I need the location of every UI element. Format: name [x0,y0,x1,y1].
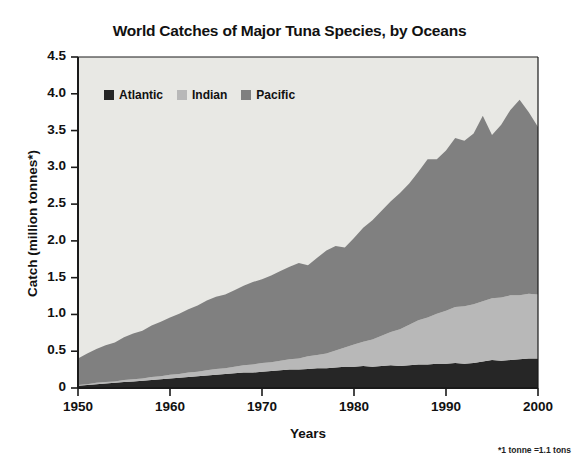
y-axis-label: Catch (million tonnes*) [25,74,40,374]
legend-swatch-icon [177,90,187,100]
y-tick-label: 3.5 [22,122,66,137]
legend-item-pacific[interactable]: Pacific [241,88,295,102]
x-tick-label: 1980 [324,399,384,414]
chart-footnote: *1 tonne =1.1 tons [498,445,571,455]
stacked-area-plot [0,0,579,464]
y-tick-label: 1.5 [22,269,66,284]
legend-label: Atlantic [119,88,163,102]
legend-swatch-icon [104,90,114,100]
y-tick-label: 1.0 [22,305,66,320]
y-tick-label: 4.0 [22,85,66,100]
y-tick-label: 3.0 [22,158,66,173]
y-tick-label: 2.5 [22,195,66,210]
y-tick-label: 0.5 [22,342,66,357]
y-tick-label: 0 [22,379,66,394]
chart-legend: AtlanticIndianPacific [104,88,295,102]
x-tick-label: 1970 [232,399,292,414]
legend-item-atlantic[interactable]: Atlantic [104,88,163,102]
legend-item-indian[interactable]: Indian [177,88,227,102]
y-tick-label: 2.0 [22,232,66,247]
x-tick-label: 2000 [508,399,568,414]
x-tick-label: 1990 [416,399,476,414]
x-tick-label: 1950 [48,399,108,414]
y-tick-label: 4.5 [22,48,66,63]
x-axis-label: Years [78,426,538,441]
legend-label: Pacific [256,88,295,102]
chart-title: World Catches of Major Tuna Species, by … [0,22,579,40]
legend-swatch-icon [241,90,251,100]
legend-label: Indian [192,88,227,102]
x-tick-label: 1960 [140,399,200,414]
chart-figure: World Catches of Major Tuna Species, by … [0,0,579,464]
